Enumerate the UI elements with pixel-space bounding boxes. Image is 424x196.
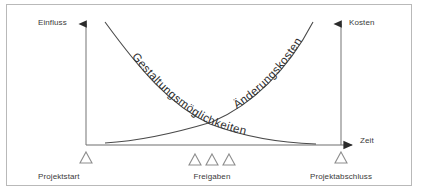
- y-axis-left-label: Einfluss: [38, 18, 67, 27]
- milestone-marker-projektstart: [80, 152, 92, 163]
- curve-label-design-options: Gestaltungsmöglichkeiten: [130, 50, 248, 137]
- milestone-marker-freigabe-1: [189, 154, 201, 165]
- milestone-label-freigaben: Freigaben: [194, 172, 231, 181]
- influence-cost-chart: Gestaltungsmöglichkeiten Änderungskosten: [0, 0, 424, 196]
- milestone-marker-freigabe-3: [223, 154, 235, 165]
- curve-label-change-costs: Änderungskosten: [231, 35, 304, 110]
- y-axis-right-label: Kosten: [349, 18, 375, 27]
- milestone-marker-freigabe-2: [206, 154, 218, 165]
- milestone-label-projektstart: Projektstart: [38, 172, 80, 181]
- milestone-marker-group: [80, 152, 347, 165]
- milestone-marker-projektabschluss: [335, 152, 347, 163]
- milestone-label-projektabschluss: Projektabschluss: [310, 172, 372, 181]
- x-axis-label: Zeit: [360, 136, 374, 145]
- diagram-root: Gestaltungsmöglichkeiten Änderungskosten…: [0, 0, 424, 196]
